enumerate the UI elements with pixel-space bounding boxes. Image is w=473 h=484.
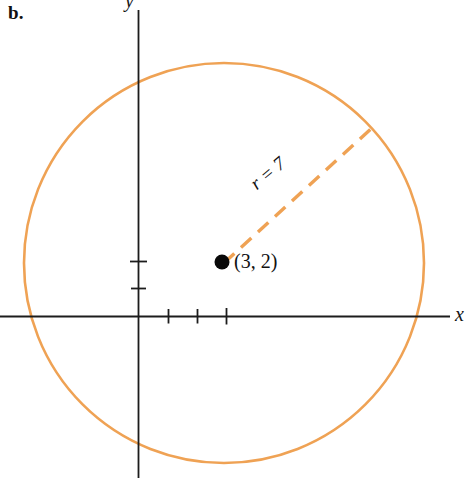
part-label: b. (8, 2, 24, 24)
radius-dashed-line (224, 128, 372, 263)
center-point-dot (215, 255, 230, 270)
coordinate-plane-svg (0, 0, 473, 484)
figure-panel: b. y x (3, 2) r = 7 (0, 0, 473, 484)
x-axis-label: x (455, 303, 464, 326)
center-point-label: (3, 2) (234, 250, 277, 273)
y-axis-label: y (125, 0, 134, 12)
